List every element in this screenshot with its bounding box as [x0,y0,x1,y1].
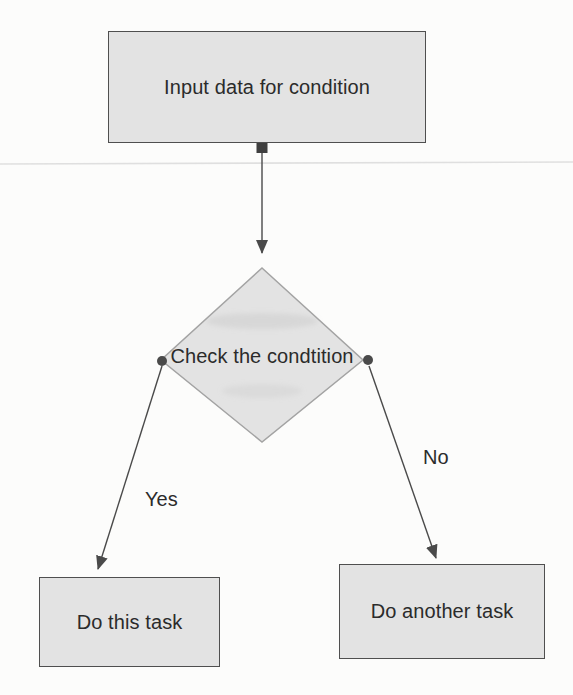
scan-artifact-line [0,162,573,164]
junction-dot-left [157,356,167,366]
process-node-input: Input data for condition [108,31,426,143]
junction-dot-right [363,355,373,365]
process-node-yes-task: Do this task [39,577,220,667]
process-node-yes-task-label: Do this task [77,611,183,634]
connector-stub-square [257,142,268,153]
edge-label-yes: Yes [145,488,178,511]
process-node-input-label: Input data for condition [164,76,370,99]
process-node-no-task-label: Do another task [371,600,514,623]
decision-node-label: Check the condtition [170,345,354,368]
edge-label-no: No [423,446,449,469]
process-node-no-task: Do another task [339,564,545,659]
flowchart-canvas: Input data for condition Check the condt… [0,0,573,695]
edge-decision-to-yes-task [98,366,162,569]
